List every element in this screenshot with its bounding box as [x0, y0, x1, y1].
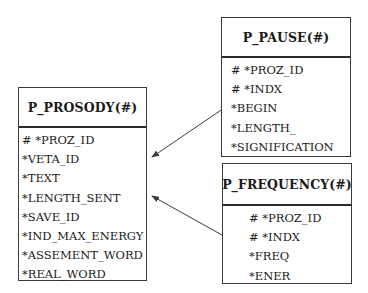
- attribute: *LENGTH_SENT: [22, 189, 146, 208]
- entity-p-pause[interactable]: P_PAUSE(#) # *PROZ_ID # *INDX *BEGIN *LE…: [221, 17, 351, 157]
- attribute: *LENGTH_: [231, 119, 350, 138]
- entity-title: P_PROSODY(#): [19, 88, 146, 128]
- attribute: *FREQ: [249, 247, 351, 266]
- attribute: # *INDX: [231, 80, 350, 99]
- attribute: # *INDX: [249, 228, 351, 247]
- arrow-frequency-to-prosody: [152, 196, 222, 235]
- entity-p-prosody[interactable]: P_PROSODY(#) # *PROZ_ID *VETA_ID *TEXT *…: [18, 87, 147, 281]
- attribute: # *PROZ_ID: [22, 131, 146, 150]
- entity-title: P_FREQUENCY(#): [223, 164, 351, 206]
- attribute: *ASSEMENT_WORD: [22, 246, 146, 265]
- entity-title: P_PAUSE(#): [222, 18, 350, 58]
- attribute: *SIGNIFICATION: [231, 138, 350, 157]
- attribute: *SAVE_ID: [22, 208, 146, 227]
- attribute: *ENER: [249, 267, 351, 286]
- attribute: # *PROZ_ID: [231, 61, 350, 80]
- attribute: # *PROZ_ID: [249, 209, 351, 228]
- attribute: *REAL_WORD: [22, 265, 146, 284]
- entity-p-frequency[interactable]: P_FREQUENCY(#) # *PROZ_ID # *INDX *FREQ …: [222, 163, 352, 284]
- attribute: *IND_MAX_ENERGY: [22, 227, 146, 246]
- attribute: *BEGIN: [231, 99, 350, 118]
- attribute: *TEXT: [22, 169, 146, 188]
- attribute: *VETA_ID: [22, 150, 146, 169]
